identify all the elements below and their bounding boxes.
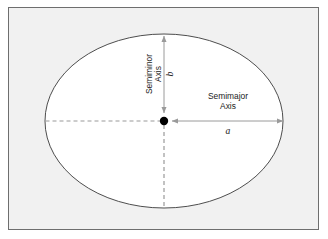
semimajor-axis-label-line2: Axis <box>220 101 236 111</box>
center-point <box>160 117 168 125</box>
semiminor-axis-label-line2: Axis <box>153 66 163 82</box>
semimajor-axis-label-line1: Semimajor <box>208 91 248 101</box>
semiminor-axis-symbol: b <box>164 71 175 76</box>
semimajor-axis-symbol: a <box>226 125 231 136</box>
ellipse-diagram: Semiminor Axis b Semimajor Axis a <box>0 0 328 239</box>
semiminor-axis-label-line1: Semiminor <box>144 54 154 94</box>
figure-root: Semiminor Axis b Semimajor Axis a <box>0 0 328 239</box>
